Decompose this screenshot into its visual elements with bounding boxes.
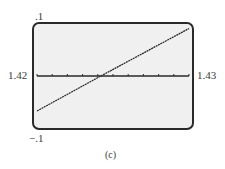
ymin-label: −.1 <box>29 133 43 144</box>
figure-caption: (c) <box>105 149 116 160</box>
ymax-label: .1 <box>35 11 43 22</box>
xmax-label: 1.43 <box>197 70 216 81</box>
xmin-label: 1.42 <box>8 70 27 81</box>
